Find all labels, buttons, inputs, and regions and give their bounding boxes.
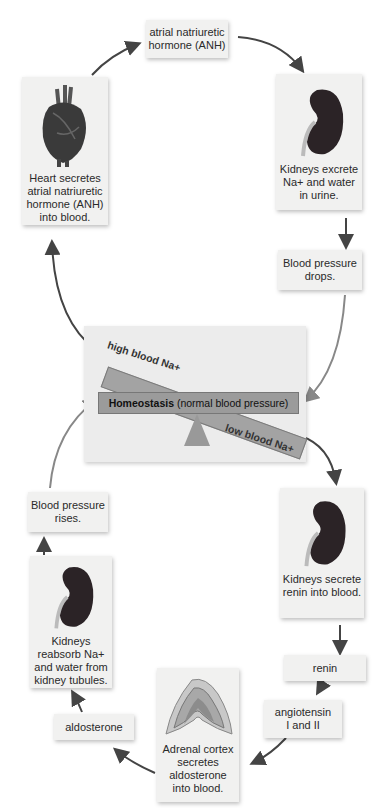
kidney-reabsorb-line: and water from: [30, 661, 112, 674]
kidney-reabsorb-box: Kidneys reabsorb Na+ and water from kidn…: [30, 556, 112, 688]
kidney-icon: [291, 84, 347, 160]
angiotensin-box: angiotensin I and II: [264, 700, 342, 738]
bp-drops-line: drops.: [283, 270, 357, 283]
adrenal-cortex-icon: [162, 674, 234, 740]
angiotensin-line: I and II: [275, 719, 331, 732]
bp-drops-line: Blood pressure: [283, 257, 357, 270]
renin-label: renin: [313, 662, 337, 675]
adrenal-line: Adrenal cortex: [157, 743, 239, 756]
kidney-icon: [294, 496, 350, 570]
kidney-excrete-line: in urine.: [276, 189, 362, 202]
kidney-renin-box: Kidneys secrete renin into blood.: [280, 488, 364, 618]
bp-rises-line: Blood pressure: [31, 499, 105, 512]
anh-box: atrial natriuretic hormone (ANH): [146, 20, 228, 58]
homeostasis-rest: (normal blood pressure): [174, 397, 288, 409]
kidney-excrete-box: Kidneys excrete Na+ and water in urine.: [276, 74, 362, 210]
kidney-excrete-line: Kidneys excrete: [276, 163, 362, 176]
heart-icon: [35, 83, 95, 169]
heart-line: atrial natriuretic: [22, 185, 108, 198]
anh-line: atrial natriuretic: [148, 26, 225, 39]
heart-line: into blood.: [22, 211, 108, 224]
aldosterone-box: aldosterone: [54, 714, 134, 740]
aldosterone-label: aldosterone: [65, 721, 123, 734]
kidney-renin-line: Kidneys secrete: [280, 573, 364, 586]
heart-line: Heart secretes: [22, 172, 108, 185]
anh-line: hormone (ANH): [148, 39, 225, 52]
adrenal-line: secretes: [157, 756, 239, 769]
kidney-reabsorb-line: kidney tubules.: [30, 674, 112, 687]
heart-box: Heart secretes atrial natriuretic hormon…: [22, 77, 108, 225]
bp-rises-line: rises.: [31, 512, 105, 525]
adrenal-line: into blood.: [157, 782, 239, 795]
adrenal-box: Adrenal cortex secretes aldosterone into…: [157, 668, 239, 802]
bp-drops-box: Blood pressure drops.: [278, 250, 362, 290]
homeostasis-bar: Homeostasis (normal blood pressure): [98, 392, 299, 414]
kidney-renin-line: renin into blood.: [280, 586, 364, 599]
kidney-reabsorb-line: reabsorb Na+: [30, 648, 112, 661]
homeostasis-bold: Homeostasis: [109, 397, 174, 409]
heart-line: hormone (ANH): [22, 198, 108, 211]
kidney-reabsorb-line: Kidneys: [30, 635, 112, 648]
fulcrum-icon: [184, 414, 210, 446]
angiotensin-line: angiotensin: [275, 706, 331, 719]
adrenal-line: aldosterone: [157, 769, 239, 782]
bp-rises-box: Blood pressure rises.: [28, 492, 108, 532]
kidney-excrete-line: Na+ and water: [276, 176, 362, 189]
renin-box: renin: [284, 655, 366, 681]
kidney-icon: [43, 562, 99, 632]
